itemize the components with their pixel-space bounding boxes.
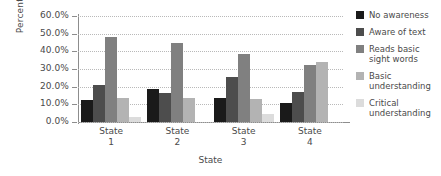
legend-item[interactable]: Reads basicsight words: [356, 44, 441, 64]
bar-group: [277, 16, 343, 122]
x-axis-category-label: State1: [78, 126, 144, 148]
bar: [226, 77, 238, 122]
y-axis-tick: [72, 51, 77, 52]
y-axis-tick: [72, 34, 77, 35]
gridline: [78, 122, 343, 123]
chart-legend: No awarenessAware of textReads basicsigh…: [356, 10, 441, 125]
y-axis-tick-label: 50.0%: [40, 28, 69, 38]
bar: [93, 85, 105, 122]
bar-group: [211, 16, 277, 122]
y-axis-tick-label: 20.0%: [40, 81, 69, 91]
legend-item[interactable]: Basicunderstanding: [356, 71, 441, 91]
y-axis-tick-label: 60.0%: [40, 10, 69, 20]
y-axis-tick: [72, 122, 77, 123]
legend-swatch-icon: [356, 28, 364, 36]
plot-area: 0.0%10.0%20.0%30.0%40.0%50.0%60.0%: [78, 16, 343, 122]
x-axis-title: State: [78, 155, 343, 165]
legend-item-label: Reads basicsight words: [369, 44, 420, 64]
x-axis-category-label: State2: [144, 126, 210, 148]
y-axis-tick: [72, 16, 77, 17]
legend-swatch-icon: [356, 45, 364, 53]
bar: [280, 103, 292, 122]
bar: [292, 92, 304, 122]
bar: [105, 37, 117, 122]
bar-group: [78, 16, 144, 122]
y-axis-tick-label: 30.0%: [40, 63, 69, 73]
legend-item-label: Aware of text: [369, 27, 426, 37]
bar: [129, 117, 141, 122]
bar: [183, 98, 195, 122]
bar: [304, 65, 316, 122]
legend-item-label: Criticalunderstanding: [369, 98, 431, 118]
bar: [214, 98, 226, 122]
bar: [316, 62, 328, 122]
bar: [81, 100, 93, 122]
x-axis-category-label: State4: [277, 126, 343, 148]
bar: [171, 43, 183, 123]
bar: [250, 99, 262, 122]
bar-chart: Percentage 0.0%10.0%20.0%30.0%40.0%50.0%…: [0, 0, 441, 176]
legend-swatch-icon: [356, 99, 364, 107]
bar: [159, 93, 171, 122]
y-axis-tick: [72, 104, 77, 105]
y-axis-tick-label: 0.0%: [46, 116, 69, 126]
legend-item[interactable]: Criticalunderstanding: [356, 98, 441, 118]
x-axis-category-labels: State1State2State3State4: [78, 126, 343, 148]
y-axis-tick: [72, 69, 77, 70]
legend-swatch-icon: [356, 11, 364, 19]
legend-item[interactable]: Aware of text: [356, 27, 441, 37]
bar: [262, 114, 274, 122]
y-axis-tick-label: 10.0%: [40, 98, 69, 108]
legend-item-label: No awareness: [369, 10, 429, 20]
legend-swatch-icon: [356, 72, 364, 80]
bar: [147, 89, 159, 122]
bar-group: [144, 16, 210, 122]
x-axis-category-label: State3: [211, 126, 277, 148]
legend-item[interactable]: No awareness: [356, 10, 441, 20]
bar: [117, 98, 129, 122]
bar-groups: [78, 16, 343, 122]
y-axis-title: Percentage: [15, 0, 29, 49]
legend-item-label: Basicunderstanding: [369, 71, 431, 91]
y-axis-tick: [72, 87, 77, 88]
bar: [238, 54, 250, 122]
y-axis-tick-label: 40.0%: [40, 45, 69, 55]
